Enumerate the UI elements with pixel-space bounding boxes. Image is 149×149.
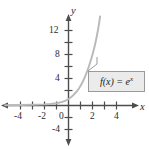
exponential-function-figure: -4 -2 0 2 4 12 8 4 -4 y x f(x) = ex [0,0,149,149]
function-callout-base: f(x) = e [100,76,130,87]
x-tick-label-neg2: -2 [38,112,46,122]
x-tick-label-zero: 0 [59,112,64,122]
x-tick-label-neg4: -4 [14,112,22,122]
function-callout-exponent: x [130,74,133,82]
y-axis-label: y [71,6,76,17]
y-axis [66,14,72,146]
function-callout-label: f(x) = ex [100,77,133,87]
function-callout-box: f(x) = ex [88,71,145,92]
x-axis-label: x [140,102,145,113]
y-tick-label-4: 4 [55,74,60,84]
y-tick-label-12: 12 [49,26,59,36]
y-tick-label-neg4: -4 [52,125,60,135]
x-tick-label-2: 2 [90,112,95,122]
x-tick-label-4: 4 [114,112,119,122]
y-tick-label-8: 8 [55,50,60,60]
